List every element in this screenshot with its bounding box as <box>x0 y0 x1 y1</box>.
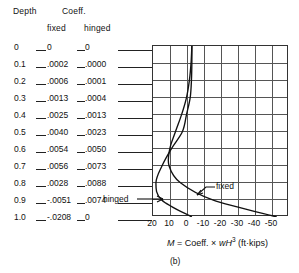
table-row: 000 <box>0 40 152 57</box>
connector-dash <box>36 169 46 170</box>
cell-depth: 0.6 <box>14 144 38 154</box>
equation-eq-text: = Coeff. <box>175 238 212 248</box>
connector-dash <box>36 152 46 153</box>
table-row: 0.4.0025.0013 <box>0 108 152 125</box>
connector-dash-to-grid <box>118 152 152 153</box>
equation-var-wH: wH <box>216 238 232 248</box>
cell-fixed: -.0051 <box>47 195 81 205</box>
connector-dash-to-grid <box>118 67 152 68</box>
connector-dash <box>77 203 85 204</box>
connector-dash <box>36 101 46 102</box>
cell-fixed: 0 <box>47 42 81 52</box>
connector-dash <box>36 135 46 136</box>
cell-hinged: .0088 <box>85 178 119 188</box>
connector-dash <box>36 203 46 204</box>
cell-depth: 0.7 <box>14 161 38 171</box>
connector-dash <box>36 220 46 221</box>
cell-hinged: .0013 <box>85 110 119 120</box>
column-header-depth: Depth <box>13 6 37 16</box>
cell-hinged: .0001 <box>85 76 119 86</box>
column-subheader-hinged: hinged <box>84 23 111 33</box>
cell-fixed: .0013 <box>47 93 81 103</box>
cell-hinged: .0000 <box>85 59 119 69</box>
connector-dash-to-grid <box>118 84 152 85</box>
cell-depth: 0.3 <box>14 93 38 103</box>
connector-dash-to-grid <box>118 169 152 170</box>
connector-dash <box>36 118 46 119</box>
connector-dash <box>77 118 85 119</box>
cell-depth: 0.4 <box>14 110 38 120</box>
cell-fixed: .0028 <box>47 178 81 188</box>
cell-hinged: .0073 <box>85 161 119 171</box>
connector-dash <box>77 152 85 153</box>
connector-dash <box>36 84 46 85</box>
connector-dash <box>77 135 85 136</box>
table-row: 0.2.0006.0001 <box>0 74 152 91</box>
cell-fixed: .0025 <box>47 110 81 120</box>
figure-sublabel: (b) <box>170 256 180 266</box>
table-row: 0.5.0040.0023 <box>0 125 152 142</box>
connector-dash-to-grid <box>118 118 152 119</box>
cell-depth: 0.1 <box>14 59 38 69</box>
table-row: 0.3.0013.0004 <box>0 91 152 108</box>
connector-dash <box>77 84 85 85</box>
connector-dash-to-grid <box>118 50 152 51</box>
cell-hinged: .0004 <box>85 93 119 103</box>
connector-dash <box>77 50 85 51</box>
cell-hinged: 0 <box>85 42 119 52</box>
cell-depth: 0 <box>14 42 38 52</box>
connector-dash <box>77 220 85 221</box>
cell-depth: 1.0 <box>14 212 38 222</box>
table-row: 0.9-.0051.0074 <box>0 193 152 210</box>
cell-fixed: .0002 <box>47 59 81 69</box>
connector-dash <box>36 50 46 51</box>
connector-dash <box>36 67 46 68</box>
cell-fixed: -.0208 <box>47 212 81 222</box>
connector-dash <box>77 67 85 68</box>
connector-dash-to-grid <box>118 135 152 136</box>
annotation-hinged: hinged <box>103 194 129 204</box>
cell-depth: 0.8 <box>14 178 38 188</box>
table-row: 1.0-.02080 <box>0 210 152 227</box>
cell-fixed: .0054 <box>47 144 81 154</box>
table-row: 0.6.0054.0050 <box>0 142 152 159</box>
cell-depth: 0.2 <box>14 76 38 86</box>
curve-layer <box>153 46 289 217</box>
column-subheader-fixed: fixed <box>47 23 66 33</box>
x-axis-tick-labels: 20100-10-20-30-40-50 <box>143 218 299 232</box>
connector-dash <box>36 186 46 187</box>
table-row: 0.1.0002.0000 <box>0 57 152 74</box>
connector-dash <box>77 101 85 102</box>
cell-hinged: .0050 <box>85 144 119 154</box>
cell-depth: 0.9 <box>14 195 38 205</box>
axis-equation-caption: M = Coeff. × wH3 (ft·kips) <box>167 236 268 248</box>
cell-hinged: 0 <box>85 212 119 222</box>
x-axis-tick-label: -50 <box>260 218 282 228</box>
connector-dash-to-grid <box>118 101 152 102</box>
equation-units: (ft·kips) <box>236 238 269 248</box>
equation-symbol-M: M <box>167 238 175 248</box>
cell-fixed: .0006 <box>47 76 81 86</box>
figure-moment-coefficient-chart: Depth Coeff. fixed hinged 0000.1.0002.00… <box>0 0 299 273</box>
table-row: 0.7.0056.0073 <box>0 159 152 176</box>
table-row: 0.8.0028.0088 <box>0 176 152 193</box>
cell-depth: 0.5 <box>14 127 38 137</box>
curve-hinged <box>156 46 192 217</box>
connector-dash <box>77 186 85 187</box>
column-header-coeff: Coeff. <box>62 6 86 16</box>
annotation-fixed: fixed <box>216 181 234 191</box>
curve-fixed <box>168 46 277 217</box>
cell-fixed: .0056 <box>47 161 81 171</box>
connector-dash-to-grid <box>118 186 152 187</box>
cell-hinged: .0023 <box>85 127 119 137</box>
connector-dash <box>77 169 85 170</box>
cell-fixed: .0040 <box>47 127 81 137</box>
